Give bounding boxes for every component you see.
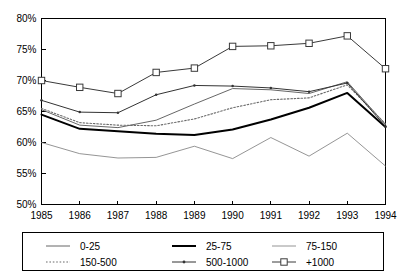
- data-point-marker: [382, 66, 388, 72]
- y-tick-label: 60%: [16, 137, 36, 148]
- series-line-150-500: [42, 85, 386, 126]
- plot-border: [42, 19, 386, 205]
- legend-label: 75-150: [306, 241, 338, 252]
- y-tick-label: 50%: [16, 199, 36, 210]
- x-tick-label: 1991: [260, 210, 283, 221]
- y-tick-label: 70%: [16, 75, 36, 86]
- legend-label: 500-1000: [206, 257, 249, 268]
- series-line-0-25: [42, 82, 386, 128]
- x-tick-label: 1988: [145, 210, 168, 221]
- x-tick-label: 1989: [183, 210, 206, 221]
- x-tick-label: 1994: [374, 210, 397, 221]
- x-tick-label: 1986: [69, 210, 92, 221]
- y-tick-label: 75%: [16, 44, 36, 55]
- series-layer: [38, 33, 388, 166]
- data-point-marker: [117, 111, 120, 114]
- data-point-marker: [77, 84, 83, 90]
- data-point-marker: [231, 85, 234, 88]
- data-point-marker: [308, 90, 311, 93]
- legend-item-+1000[interactable]: +1000: [272, 257, 335, 268]
- data-point-marker: [115, 90, 121, 96]
- legend-label: 0-25: [80, 241, 100, 252]
- legend-item-500-1000[interactable]: 500-1000: [172, 257, 249, 268]
- data-point-marker: [229, 43, 235, 49]
- legend-label: +1000: [306, 257, 335, 268]
- data-point-marker: [153, 69, 159, 75]
- x-tick-label: 1992: [298, 210, 321, 221]
- y-tick-label: 80%: [16, 13, 36, 24]
- legend-item-25-75[interactable]: 25-75: [172, 241, 232, 252]
- data-point-marker: [40, 99, 43, 102]
- series-line-75-150: [42, 133, 386, 166]
- x-tick-label: 1987: [107, 210, 130, 221]
- data-point-marker: [270, 87, 273, 90]
- series-line-25-75: [42, 93, 386, 135]
- data-point-marker: [78, 111, 81, 114]
- chart-root: 50%55%60%65%70%75%80% 198519861987198819…: [0, 0, 406, 277]
- x-tick-label: 1993: [336, 210, 359, 221]
- data-point-marker: [38, 77, 44, 83]
- legend-entries: 0-2525-7575-150150-500500-1000+1000: [46, 241, 338, 268]
- line-chart: 50%55%60%65%70%75%80% 198519861987198819…: [0, 0, 406, 277]
- legend-marker-dot: [183, 261, 186, 264]
- plot-frame: [42, 19, 386, 205]
- legend-label: 150-500: [80, 257, 117, 268]
- legend-item-0-25[interactable]: 0-25: [46, 241, 100, 252]
- data-point-marker: [306, 40, 312, 46]
- x-tick-label: 1985: [30, 210, 53, 221]
- legend-marker-square: [281, 259, 287, 265]
- data-point-marker: [191, 65, 197, 71]
- data-point-marker: [155, 94, 158, 97]
- legend-label: 25-75: [206, 241, 232, 252]
- data-point-marker: [344, 33, 350, 39]
- y-tick-label: 55%: [16, 168, 36, 179]
- series-line-+1000: [42, 36, 386, 94]
- data-point-marker: [384, 125, 387, 128]
- data-point-marker: [346, 82, 349, 85]
- x-axis-labels: 1985198619871988198919901991199219931994: [30, 210, 397, 221]
- x-axis-ticks: [42, 201, 386, 205]
- data-point-marker: [193, 84, 196, 87]
- x-tick-label: 1990: [221, 210, 244, 221]
- legend-item-150-500[interactable]: 150-500: [46, 257, 117, 268]
- y-axis-labels: 50%55%60%65%70%75%80%: [16, 13, 36, 210]
- y-tick-label: 65%: [16, 106, 36, 117]
- data-point-marker: [268, 43, 274, 49]
- legend-item-75-150[interactable]: 75-150: [272, 241, 338, 252]
